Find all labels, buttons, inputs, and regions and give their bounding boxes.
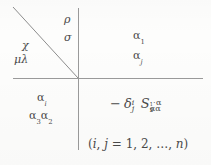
label-chi: χ <box>22 40 29 52</box>
subscript-1: 1 <box>140 38 144 46</box>
label-mu-lambda: μλ <box>14 54 28 66</box>
equals-sign: = <box>112 137 122 151</box>
index-diagram-figure: χ μλ ρ σ α1 αj αi α3α2 −δijS··α1α3α2 (i,… <box>0 0 211 165</box>
sigma-glyph: σ <box>64 31 72 44</box>
subscript-j: j <box>140 58 142 66</box>
subscript-3: 3 <box>36 118 40 126</box>
alpha-glyph: α <box>155 104 160 113</box>
tensor-formula: −δijS··α1α3α2 <box>110 97 177 111</box>
ellipsis: …, <box>156 137 172 151</box>
index-range-note: (i, j = 1, 2, …, n) <box>88 138 188 151</box>
subscript-2: 2 <box>48 118 52 126</box>
rho-glyph: ρ <box>64 13 70 26</box>
s-glyph: S <box>141 96 150 111</box>
delta-glyph: δ <box>124 96 132 111</box>
subscript-i: i <box>44 100 46 108</box>
label-alpha-sub-i: αi <box>37 92 47 104</box>
comma: , <box>97 137 101 151</box>
horizontal-axis-line <box>13 78 203 79</box>
close-paren: ) <box>184 137 189 151</box>
vertical-axis-line <box>78 8 79 150</box>
value-1: 1, <box>126 137 137 151</box>
minus-sign: − <box>110 96 121 111</box>
label-alpha-sub-j: αj <box>133 50 143 62</box>
chi-glyph: χ <box>22 39 29 52</box>
value-2: 2, <box>141 137 152 151</box>
mu-lambda-glyph: μλ <box>14 53 28 66</box>
label-sigma: σ <box>64 32 72 44</box>
label-alpha-sub-1: α1 <box>133 30 145 42</box>
label-alpha-3-alpha-2: α3α2 <box>29 110 53 122</box>
index-j: j <box>104 137 108 151</box>
value-n: n <box>176 137 184 151</box>
label-rho: ρ <box>64 14 70 26</box>
